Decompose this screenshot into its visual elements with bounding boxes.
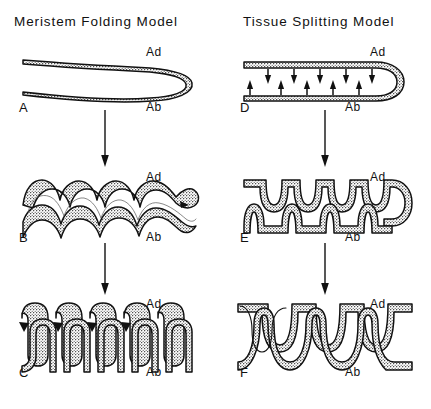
force-arrow-abaxial-1 bbox=[247, 80, 253, 95]
tissue-diagram-svg bbox=[0, 0, 431, 409]
figure-canvas: Meristem Folding Model Tissue Splitting … bbox=[0, 0, 431, 409]
force-arrow-adaxial-4 bbox=[343, 69, 349, 84]
force-arrow-adaxial-3 bbox=[317, 69, 323, 84]
flow-arrow-e-to-f bbox=[321, 243, 329, 295]
force-arrow-abaxial-4 bbox=[330, 80, 336, 95]
panel-a-tissue bbox=[23, 60, 192, 102]
flow-arrow-d-to-e bbox=[321, 110, 329, 167]
flow-arrow-a-to-b bbox=[101, 110, 109, 167]
panel-d-force-arrows bbox=[247, 69, 375, 95]
panel-b-tissue bbox=[23, 180, 199, 238]
flow-arrow-b-to-c bbox=[101, 243, 109, 295]
force-arrow-adaxial-5 bbox=[369, 69, 375, 84]
panel-e-tissue bbox=[244, 180, 412, 233]
force-arrow-abaxial-2 bbox=[278, 80, 284, 95]
force-arrow-adaxial-1 bbox=[265, 69, 271, 84]
panel-f-tissue bbox=[238, 304, 412, 370]
panel-c-tissue bbox=[19, 303, 192, 372]
force-arrow-adaxial-2 bbox=[291, 69, 297, 84]
force-arrow-abaxial-3 bbox=[304, 80, 310, 95]
force-arrow-abaxial-5 bbox=[356, 80, 362, 95]
